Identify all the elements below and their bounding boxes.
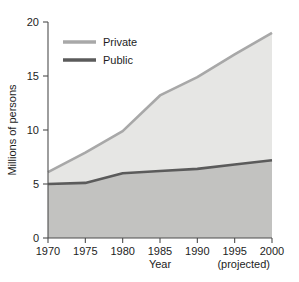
area-chart: 05101520 1970197519801985199019952000 Mi… <box>0 0 299 282</box>
x-tick-label: 1985 <box>148 245 172 257</box>
y-tick-label: 5 <box>33 178 39 190</box>
x-tick-label: 1995 <box>222 245 246 257</box>
y-axis-title: Millions of persons <box>6 84 18 176</box>
y-tick-label: 15 <box>27 70 39 82</box>
x-tick-label: 2000 <box>260 245 284 257</box>
y-tick-label: 0 <box>33 232 39 244</box>
x-tick-label: 1990 <box>185 245 209 257</box>
y-tick-label: 20 <box>27 16 39 28</box>
x-tick-label: 1970 <box>36 245 60 257</box>
chart-canvas: 05101520 1970197519801985199019952000 Mi… <box>0 0 299 282</box>
projected-annotation: (projected) <box>217 258 270 270</box>
legend-label-public: Public <box>103 54 133 66</box>
legend-label-private: Private <box>103 36 137 48</box>
x-tick-label: 1980 <box>110 245 134 257</box>
x-axis-ticks: 1970197519801985199019952000 <box>36 238 284 257</box>
y-tick-label: 10 <box>27 124 39 136</box>
y-axis-ticks: 05101520 <box>27 16 48 244</box>
x-tick-label: 1975 <box>73 245 97 257</box>
x-axis-title: Year <box>149 258 172 270</box>
